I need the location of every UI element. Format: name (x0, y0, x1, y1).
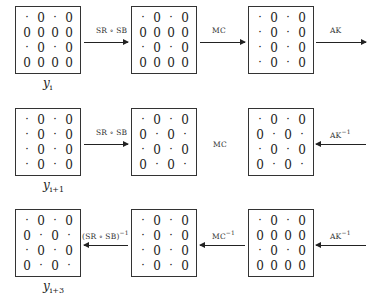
arrow-right-icon (84, 144, 128, 145)
zero-cell: 0 (150, 258, 164, 273)
zero-cell: 0 (150, 112, 164, 127)
zero-cell: 0 (267, 25, 281, 40)
operation-label: AK (330, 26, 341, 35)
zero-cell: 0 (62, 40, 76, 55)
operation-name: MC (212, 232, 226, 241)
zero-cell: 0 (267, 10, 281, 25)
active-cell: · (253, 25, 267, 40)
active-cell: · (136, 258, 150, 273)
active-cell: · (164, 228, 178, 243)
active-cell: · (281, 10, 295, 25)
zero-cell: 0 (253, 228, 267, 243)
zero-cell: 0 (281, 127, 295, 142)
arrow-left-icon (84, 245, 128, 246)
label-subscript: i+1 (50, 185, 64, 194)
active-cell: · (20, 10, 34, 25)
zero-cell: 0 (164, 127, 178, 142)
active-cell: · (48, 112, 62, 127)
zero-cell: 0 (62, 112, 76, 127)
zero-cell: 0 (267, 142, 281, 157)
zero-cell: 0 (62, 142, 76, 157)
inverse-superscript: −1 (341, 128, 350, 135)
zero-cell: 0 (253, 127, 267, 142)
zero-cell: 0 (34, 157, 48, 172)
operation-name: MC (212, 26, 226, 35)
zero-cell: 0 (48, 55, 62, 70)
state-label: yi+3 (43, 279, 64, 295)
arrow-right-icon (84, 42, 128, 43)
zero-cell: 0 (20, 258, 34, 273)
active-cell: · (295, 127, 309, 142)
zero-cell: 0 (295, 112, 309, 127)
state-matrix: ·0·00000·0·00000 (15, 6, 81, 74)
zero-cell: 0 (295, 40, 309, 55)
zero-cell: 0 (178, 228, 192, 243)
operation-label: SR ∘ SB (96, 26, 127, 35)
active-cell: · (48, 157, 62, 172)
zero-cell: 0 (34, 213, 48, 228)
active-cell: · (62, 228, 76, 243)
zero-cell: 0 (295, 243, 309, 258)
active-cell: · (136, 228, 150, 243)
zero-cell: 0 (178, 55, 192, 70)
zero-cell: 0 (62, 10, 76, 25)
active-cell: · (267, 157, 281, 172)
zero-cell: 0 (48, 258, 62, 273)
active-cell: · (164, 40, 178, 55)
active-cell: · (281, 25, 295, 40)
active-cell: · (164, 243, 178, 258)
active-cell: · (20, 142, 34, 157)
label-base: y (43, 178, 50, 192)
operation-label: AK−1 (330, 229, 351, 241)
zero-cell: 0 (178, 243, 192, 258)
active-cell: · (136, 213, 150, 228)
zero-cell: 0 (295, 25, 309, 40)
zero-cell: 0 (136, 127, 150, 142)
operation-label: AK−1 (330, 128, 351, 140)
zero-cell: 0 (62, 213, 76, 228)
active-cell: · (281, 55, 295, 70)
state-matrix: ·0·0·0·0·0·0·0·0 (248, 6, 314, 74)
arrow-left-icon (316, 245, 366, 246)
zero-cell: 0 (34, 142, 48, 157)
active-cell: · (34, 258, 48, 273)
operation-name: AK (330, 131, 341, 140)
active-cell: · (20, 112, 34, 127)
state-matrix: ·0·00·0··0·00·0· (131, 108, 197, 176)
active-cell: · (253, 243, 267, 258)
zero-cell: 0 (295, 55, 309, 70)
zero-cell: 0 (295, 228, 309, 243)
active-cell: · (48, 243, 62, 258)
operation-label: MC−1 (212, 229, 235, 241)
active-cell: · (20, 157, 34, 172)
zero-cell: 0 (178, 258, 192, 273)
operation-name: AK (330, 232, 341, 241)
zero-cell: 0 (34, 112, 48, 127)
active-cell: · (136, 112, 150, 127)
active-cell: · (164, 142, 178, 157)
active-cell: · (20, 40, 34, 55)
active-cell: · (267, 127, 281, 142)
zero-cell: 0 (150, 142, 164, 157)
active-cell: · (48, 10, 62, 25)
operation-name: SR ∘ SB (96, 26, 127, 35)
active-cell: · (20, 127, 34, 142)
zero-cell: 0 (267, 40, 281, 55)
state-matrix: ·0·00000·0·00000 (248, 209, 314, 277)
zero-cell: 0 (178, 142, 192, 157)
active-cell: · (164, 213, 178, 228)
active-cell: · (281, 213, 295, 228)
zero-cell: 0 (136, 25, 150, 40)
active-cell: · (136, 243, 150, 258)
label-base: y (43, 76, 50, 90)
active-cell: · (178, 157, 192, 172)
label-subscript: i (50, 83, 53, 92)
active-cell: · (150, 157, 164, 172)
zero-cell: 0 (62, 157, 76, 172)
operation-name: (SR ∘ SB) (82, 232, 120, 241)
active-cell: · (253, 112, 267, 127)
zero-cell: 0 (178, 40, 192, 55)
zero-cell: 0 (136, 55, 150, 70)
label-subscript: i+3 (50, 286, 64, 295)
label-base: y (43, 279, 50, 293)
